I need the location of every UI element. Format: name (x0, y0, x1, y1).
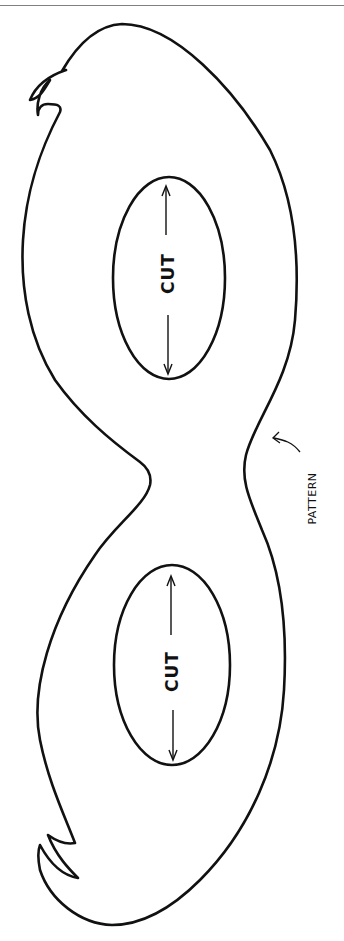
pattern-label: PATTERN (306, 469, 319, 529)
mask-outline (22, 24, 296, 925)
pattern-pointer-arrow (274, 438, 300, 452)
upper-cut-label: CUT (158, 254, 178, 294)
lower-cut-label: CUT (162, 652, 182, 692)
mask-pattern-drawing (0, 0, 344, 941)
pattern-arrowhead (273, 432, 280, 443)
